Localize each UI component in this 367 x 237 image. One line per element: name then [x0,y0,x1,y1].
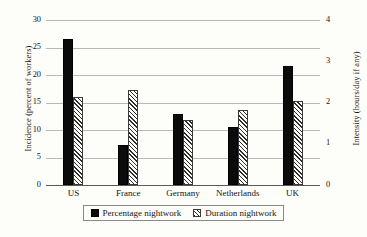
legend-item: Percentage nightwork [91,208,182,218]
plot-area: 05101520253001234 [46,20,320,185]
y-axis-left-tick: 5 [37,153,41,161]
legend-swatch-hatch [193,209,201,217]
x-axis-label-us: US [68,188,80,198]
bar-group [101,20,156,185]
y-axis-right-tick: 0 [326,181,330,189]
y-axis-left-tick: 15 [33,98,41,106]
bar-percentage-nightwork [63,39,73,185]
y-axis-left-title: Incidence (percent of workers) [24,24,33,174]
bar-duration-nightwork [183,120,193,185]
y-axis-right-tick: 4 [326,16,330,24]
legend-swatch-solid [91,209,99,217]
chart-legend: Percentage nightworkDuration nightwork [83,205,285,221]
y-axis-left-tick: 20 [33,71,41,79]
bar-percentage-nightwork [173,114,183,186]
y-axis-left-tick: 25 [33,43,41,51]
y-axis-left-tick: 30 [33,16,41,24]
x-axis-label-germany: Germany [166,188,200,198]
axis-baseline [46,185,320,186]
x-axis-label-netherlands: Netherlands [216,188,259,198]
legend-item: Duration nightwork [193,208,276,218]
bar-chart: Incidence (percent of workers) Intensity… [0,0,367,237]
bar-duration-nightwork [73,97,83,185]
bar-group [265,20,320,185]
bar-duration-nightwork [293,101,303,185]
y-axis-right-tick: 1 [326,139,330,147]
bar-duration-nightwork [238,110,248,185]
y-axis-right-tick: 2 [326,98,330,106]
x-axis-label-france: France [116,188,141,198]
y-axis-right-title: Intensity (hours/day if any) [352,24,361,174]
bar-percentage-nightwork [228,127,238,185]
bar-percentage-nightwork [283,66,293,185]
legend-label: Duration nightwork [205,208,276,218]
bar-group [156,20,211,185]
bar-group [210,20,265,185]
x-axis-label-uk: UK [286,188,299,198]
legend-label: Percentage nightwork [103,208,182,218]
bar-percentage-nightwork [118,145,128,185]
y-axis-left-tick: 0 [37,181,41,189]
x-axis-category-labels: USFranceGermanyNetherlandsUK [46,188,320,202]
bar-duration-nightwork [128,90,138,185]
y-axis-right-tick: 3 [326,57,330,65]
bar-group [46,20,101,185]
y-axis-left-tick: 10 [33,126,41,134]
